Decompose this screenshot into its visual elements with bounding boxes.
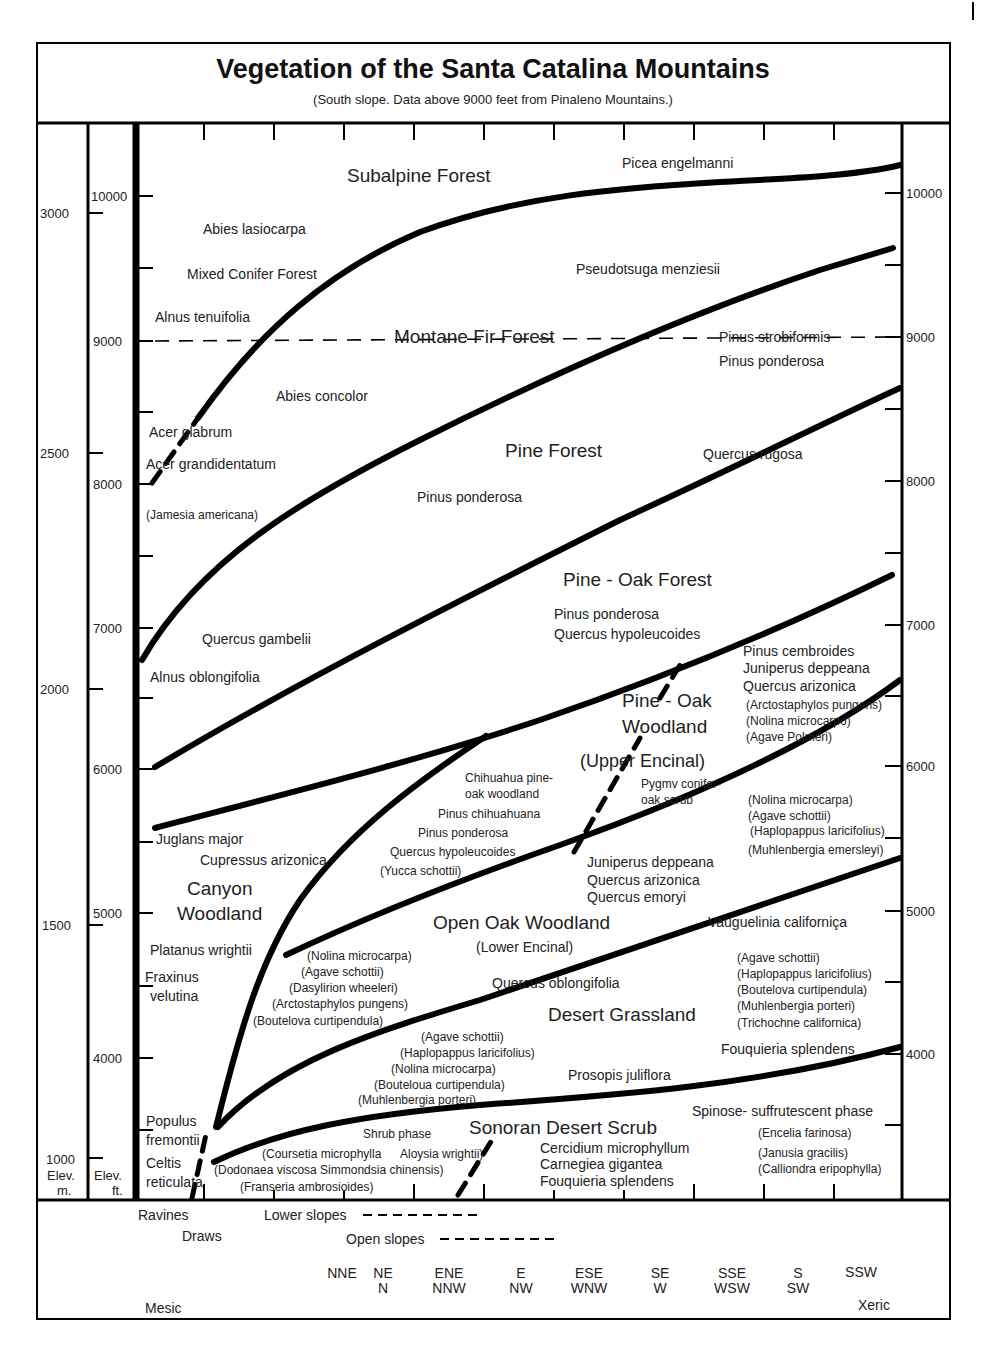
axes-feet_ticks_right-3-text: 7000 (906, 618, 935, 633)
footer-aspects-2-bottom-text: NNW (432, 1280, 466, 1296)
species-aloysia-text: Aloysia wrightii) (400, 1147, 483, 1161)
axes-feet_ticks_left-4-text: 6000 (93, 762, 122, 777)
species-quercus_rugosa-text: Quercus rugosa (703, 446, 803, 462)
species-juglans-text: Juglans major (156, 831, 243, 847)
species-pseudotsuga-text: Pseudotsuga menziesii (576, 261, 720, 277)
species-pinus_ponderosa_2-text: Pinus ponderosa (417, 489, 522, 505)
axes-feet_ticks_right-5-text: 5000 (906, 904, 935, 919)
page-subtitle: (South slope. Data above 9000 feet from … (313, 92, 673, 107)
axes-feet_ticks_left-6-text: 4000 (93, 1051, 122, 1066)
footer-aspects-8-top-text: SSW (845, 1264, 878, 1280)
footer-aspects-3-top-text: E (516, 1265, 525, 1281)
zone-pine: Pine Forest (505, 440, 603, 461)
axes-feet_label_1-text: Elev. (94, 1168, 122, 1183)
axes-feet_ticks_left-2-text: 8000 (93, 477, 122, 492)
species-arctostaphylos_2-text: (Arctostaphylos pungens) (272, 997, 408, 1011)
axes-meters_ticks-2-text: 2000 (40, 682, 69, 697)
footer-aspects-2-top-text: ENE (435, 1265, 464, 1281)
species-chihuahua_1-text: Chihuahua pine- (465, 771, 553, 785)
species-pinus_ponderosa_4-text: Pinus ponderosa (418, 826, 508, 840)
species-pinus_ponderosa_3-text: Pinus ponderosa (554, 606, 659, 622)
species-muhlenbergia_m-text: (Muhlenbergia porteri) (358, 1093, 476, 1107)
species-dasylirion-text: (Dasylirion wheeleri) (289, 981, 398, 995)
axes-feet_ticks_left-3-text: 7000 (93, 621, 122, 636)
species-pygmy_2-text: oak scrub (641, 793, 693, 807)
mesic-label: Mesic (145, 1300, 182, 1316)
species-quercus_gambelii-text: Quercus gambelii (202, 631, 311, 647)
footer-aspects-1-bottom-text: N (378, 1280, 388, 1296)
feet-axis-left: 10000 9000 8000 7000 6000 5000 4000 Elev… (91, 189, 153, 1198)
species-pygmy_1-text: Pygmv conifer- (641, 777, 721, 791)
species-quercus_arizonica_2-text: Quercus arizonica (587, 872, 700, 888)
zone-pine-oak-forest: Pine - Oak Forest (563, 569, 713, 590)
feet-axis-right: 10000 9000 8000 7000 6000 5000 4000 (885, 186, 942, 1125)
species-nolina_l-text: (Nolina microcarpa) (307, 949, 412, 963)
species-haplopappus_r1-text: (Haplopappus laricifolius) (750, 824, 885, 838)
species-dodonaea-text: (Dodonaea viscosa Simmondsia chinensis) (214, 1163, 443, 1177)
meters-axis: 3000 2500 2000 1500 1000 Elev. m. (40, 206, 103, 1198)
species-vauquelinia-text: Vauguelinia californiça (708, 914, 847, 930)
draws-label: Draws (182, 1228, 222, 1244)
footer-aspects-4-bottom-text: WNW (571, 1280, 608, 1296)
species-nolina_r1-text: (Nolina microcarpa) (748, 793, 853, 807)
species-acer_grandidentatum-text: Acer grandidentatum (146, 456, 276, 472)
species-abies_lasiocarpa-text: Abies lasiocarpa (203, 221, 306, 237)
species-mixed_conifer-text: Mixed Conifer Forest (187, 266, 317, 282)
zone-open-oak-woodland: Open Oak Woodland (433, 912, 610, 933)
species-nolina_m-text: (Nolina microcarpa) (391, 1062, 496, 1076)
species-alnus_oblongifolia-text: Alnus oblongifolia (150, 669, 260, 685)
species-fraxinus_1-text: Fraxinus (145, 969, 199, 985)
zone-subalpine: Subalpine Forest (347, 165, 491, 186)
species-agave_r1-text: (Agave schottii) (748, 809, 831, 823)
species-celtis_2-text: reticulata (146, 1174, 203, 1190)
axes-feet_label_2-text: ft. (112, 1183, 123, 1198)
species-pinus_ponderosa_1-text: Pinus ponderosa (719, 353, 824, 369)
axes-meters_ticks-0-text: 3000 (40, 206, 69, 221)
axes-feet_ticks_right-6-text: 4000 (906, 1047, 935, 1062)
zones-upper_encinal-text: (Upper Encinal) (580, 751, 705, 771)
zone-montane: Montane Fir Forest (394, 326, 555, 347)
lower-slopes-label: Lower slopes (264, 1207, 347, 1223)
species-calliondra-text: (Calliondra eripophylla) (758, 1162, 881, 1176)
species-fouquieria_2-text: Fouquieria splendens (540, 1173, 674, 1189)
axes-meters_ticks-4-text: 1000 (46, 1152, 75, 1167)
axes-feet_ticks_left-5-text: 5000 (93, 906, 122, 921)
species-boutelova_l-text: (Boutelova curtipendula) (253, 1014, 383, 1028)
footer-aspects-6-bottom-text: WSW (714, 1280, 751, 1296)
species-quercus_arizonica_1-text: Quercus arizonica (743, 678, 856, 694)
top-ticks (204, 123, 834, 140)
footer-aspects-7-top-text: S (793, 1265, 802, 1281)
species-chihuahua_2-text: oak woodland (465, 787, 539, 801)
species-juniperus_deppeana_2-text: Juniperus deppeana (587, 854, 714, 870)
species-shrub_phase-text: Shrub phase (363, 1127, 431, 1141)
species-spinose-text: Spinose- suffrutescent phase (692, 1103, 873, 1119)
zone-pine-oak-woodland: Pine - Oak (622, 690, 712, 711)
species-boutelova_r2-text: (Boutelova curtipendula) (737, 983, 867, 997)
axes-meters_ticks-3-text: 1500 (42, 918, 71, 933)
species-jamesia-text: (Jamesia americana) (146, 508, 258, 522)
species-janusia-text: (Janusia gracilis) (758, 1146, 848, 1160)
axes-feet_ticks_left-0-text: 10000 (91, 189, 127, 204)
zones-canyon_2-text: Woodland (177, 903, 262, 924)
axes-feet_ticks_right-4-text: 6000 (906, 759, 935, 774)
species-populus_2-text: fremontii (146, 1132, 200, 1148)
xeric-label: Xeric (858, 1297, 890, 1313)
zone-desert-grassland: Desert Grassland (548, 1004, 696, 1025)
footer-aspects-5-top-text: SE (651, 1265, 670, 1281)
species-quercus_hypoleucoides_1-text: Quercus hypoleucoides (554, 626, 700, 642)
axes-feet_ticks_right-1-text: 9000 (906, 330, 935, 345)
axes-meters_label_2-text: m. (57, 1183, 71, 1198)
species-abies_concolor-text: Abies concolor (276, 388, 368, 404)
species-labels: Picea engelmanni Abies lasiocarpa Mixed … (145, 155, 885, 1194)
species-yucca-text: (Yucca schottii) (380, 864, 461, 878)
axes-feet_ticks_right-0-text: 10000 (906, 186, 942, 201)
species-pinus_strobiformis-text: Pinus strobiformis (719, 329, 830, 345)
species-pinus_cembroides-text: Pinus cembroides (743, 643, 854, 659)
species-platanus-text: Platanus wrightii (150, 942, 252, 958)
axes-feet_ticks_left-1-text: 9000 (93, 334, 122, 349)
species-quercus_oblongifolia-text: Quercus oblongifolia (492, 975, 620, 991)
ravines-label: Ravines (138, 1207, 189, 1223)
species-fouquieria_1-text: Fouquieria splendens (721, 1041, 855, 1057)
species-quercus_hypoleucoides_2-text: Quercus hypoleucoides (390, 845, 515, 859)
footer-aspects-7-bottom-text: SW (787, 1280, 810, 1296)
